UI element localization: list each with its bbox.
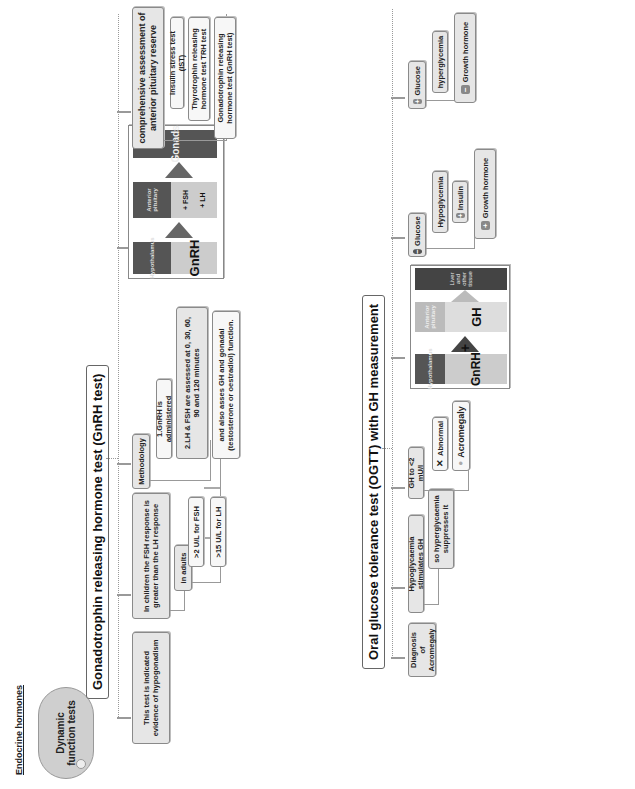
gh-abnormal-node[interactable]: ✕ Abnormal	[432, 417, 448, 471]
hypoglycemia-node[interactable]: Hypoglycemia	[432, 171, 448, 233]
arrow-icon	[165, 222, 193, 238]
reserve-test-ist[interactable]: Insulin stress test (IST)	[170, 17, 184, 109]
x-icon: ✕	[435, 459, 446, 467]
adults-item-lh[interactable]: >15 U/L for LH	[210, 497, 226, 567]
gh-threshold-node[interactable]: GH to <2 mU/l	[408, 447, 424, 499]
growth-hormone-minus-label: Growth hormone	[461, 22, 470, 82]
hypothalamus-band: Hypothalamus	[133, 242, 171, 274]
gh-hormone-band: GH	[445, 302, 507, 332]
adults-item-fsh[interactable]: >2 U/L for FSH	[188, 497, 204, 567]
gh-acromegaly-node[interactable]: ● Acromegaly	[452, 401, 470, 471]
ogtt-bus-line	[392, 9, 393, 659]
reserve-test-trh[interactable]: Thyrotrophin releasing hormone test TRH …	[188, 17, 210, 121]
pituitary-reserve-node[interactable]: comprehensive assessment of anterior pit…	[132, 7, 164, 149]
anterior-pituitary-band: Anterior pituitary	[415, 302, 445, 332]
reserve-test-gnrh[interactable]: Gonadotrophin releasing hormone test (Gn…	[214, 17, 236, 139]
glucose-minus-node[interactable]: − Glucose	[408, 213, 426, 257]
gnrh-title-connector	[106, 458, 118, 459]
arrow-icon	[165, 162, 193, 178]
gnrh-hormone-band: GnRH	[171, 242, 217, 274]
section-title: Endocrine hormones	[14, 685, 24, 775]
glucose-minus-label: Glucose	[413, 216, 422, 246]
plus-icon: +	[413, 99, 422, 104]
methodology-node[interactable]: Methodology	[132, 434, 150, 489]
ogtt-title-connector	[382, 448, 392, 449]
ogtt-axis-figure: Hypothalamus GnRH + Anterior pituitary G…	[410, 265, 510, 389]
hypothalamus-band: Hypothalamus	[415, 354, 445, 384]
plus-icon: +	[456, 213, 465, 218]
cloud-icon	[76, 759, 86, 769]
glucose-plus-label: Glucose	[413, 66, 422, 96]
plus-icon: +	[481, 221, 490, 230]
minus-icon: −	[413, 249, 422, 254]
methodology-step-1[interactable]: 1.GnRH is administered	[156, 379, 172, 459]
growth-hormone-minus-node[interactable]: − Growth hormone	[454, 13, 476, 103]
hyperglycaemia-suppresses-node[interactable]: so hyperglycaemia suppresses it	[428, 489, 454, 569]
root-label: Dynamic function tests	[55, 698, 77, 768]
methodology-step-2[interactable]: 2.LH & FSH are assessed at 0, 30, 60, 90…	[176, 307, 208, 459]
gh-abnormal-label: Abnormal	[436, 421, 445, 456]
growth-hormone-plus-node[interactable]: + Growth hormone	[474, 149, 496, 239]
diagram-canvas: Endocrine hormones Dynamic function test…	[0, 0, 635, 789]
lh-fsh-band: + FSH + LH	[171, 182, 217, 218]
dot-icon: ●	[456, 461, 466, 466]
plus-sign: +	[457, 344, 473, 352]
gnrh-hormone-band: GnRH	[445, 354, 507, 384]
liver-tissue-band: Liver and other tissue	[415, 268, 507, 290]
anterior-pituitary-band: Anterior pituitary	[133, 182, 171, 218]
growth-hormone-plus-label: Growth hormone	[481, 158, 490, 218]
children-response-node[interactable]: In children the FSH response is greater …	[132, 493, 170, 619]
minus-icon: −	[461, 85, 470, 94]
gnrh-bus-line	[118, 14, 119, 719]
glucose-plus-node[interactable]: + Glucose	[408, 61, 426, 109]
ogtt-title[interactable]: Oral glucose tolerance test (OGTT) with …	[362, 295, 385, 669]
hypoglycaemia-node[interactable]: Hypoglycaemia stimulates GH	[408, 515, 424, 613]
insulin-node[interactable]: + Insulin	[452, 181, 468, 223]
gnrh-test-title[interactable]: Gonadotrophin releasing hormone test (Gn…	[86, 365, 109, 699]
gh-acromegaly-label: Acromegaly	[456, 406, 467, 458]
arrow-icon	[451, 290, 479, 302]
hyperglycemia-node[interactable]: hyperglycemia	[432, 31, 448, 93]
diagnosis-acromegaly-node[interactable]: Diagnosis of Acromegaly	[408, 623, 436, 677]
methodology-step-3[interactable]: and also asses GH and gonadal (testoster…	[212, 311, 240, 459]
insulin-label: Insulin	[456, 186, 465, 210]
gnrh-indication-node[interactable]: This test is indicated evidence of hypog…	[132, 632, 170, 744]
